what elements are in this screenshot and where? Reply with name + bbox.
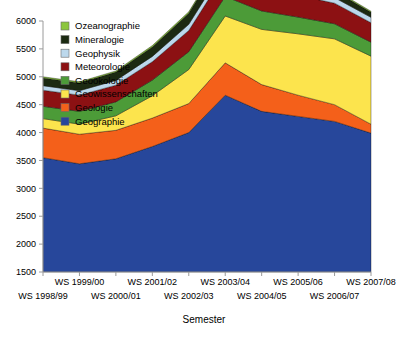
y-tick-label: 6000 [16, 16, 36, 26]
x-tick-label-ws-2001-02: WS 2001/02 [128, 277, 178, 287]
y-tick-label: 1500 [16, 267, 36, 277]
y-tick-label: 2500 [16, 211, 36, 221]
legend-swatch-icon [61, 90, 69, 98]
legend-item-label: Meteorologie [75, 61, 130, 72]
x-tick-label-ws-2004-05: WS 2004/05 [237, 291, 287, 301]
y-tick-label: 2000 [16, 239, 36, 249]
y-tick-label: 4500 [16, 100, 36, 110]
x-tick-label-ws-2000-01: WS 2000/01 [91, 291, 141, 301]
legend-swatch-icon [61, 36, 69, 44]
legend-item-label: Mineralogie [75, 34, 124, 45]
legend-swatch-icon [61, 117, 69, 125]
legend-item-geologie[interactable]: Geologie [61, 102, 113, 113]
legend-item-geowissenschaften[interactable]: Geowissenschaften [61, 88, 158, 99]
x-tick-label-ws-2002-03: WS 2002/03 [164, 291, 214, 301]
legend-item-label: Geographie [75, 116, 125, 127]
legend-item-label: Geoökologie [75, 75, 128, 86]
x-tick-label-ws-1999-00: WS 1999/00 [55, 277, 105, 287]
legend-swatch-icon [61, 49, 69, 57]
y-tick-label: 3000 [16, 184, 36, 194]
legend-swatch-icon [61, 22, 69, 30]
legend-item-label: Geowissenschaften [75, 88, 158, 99]
x-axis-title: Semester [183, 314, 226, 325]
legend-swatch-icon [61, 63, 69, 71]
stacked-area-chart: 6000550050004500400035003000250020001500… [0, 0, 408, 341]
legend-item-label: Geophysik [75, 48, 120, 59]
x-tick-label-ws-2003-04: WS 2003/04 [200, 277, 250, 287]
y-tick-label: 5000 [16, 72, 36, 82]
x-tick-label-ws-1998-99: WS 1998/99 [18, 291, 68, 301]
legend-item-label: Ozeanographie [75, 20, 140, 31]
legend-swatch-icon [61, 104, 69, 112]
y-tick-label: 3500 [16, 156, 36, 166]
legend-item-label: Geologie [75, 102, 113, 113]
x-tick-label-ws-2006-07: WS 2006/07 [310, 291, 360, 301]
y-tick-label: 5500 [16, 44, 36, 54]
chart-canvas: 6000550050004500400035003000250020001500… [0, 0, 408, 341]
legend-swatch-icon [61, 76, 69, 84]
x-tick-label-ws-2005-06: WS 2005/06 [273, 277, 323, 287]
x-tick-label-ws-2007-08: WS 2007/08 [346, 277, 396, 287]
y-tick-label: 4000 [16, 128, 36, 138]
